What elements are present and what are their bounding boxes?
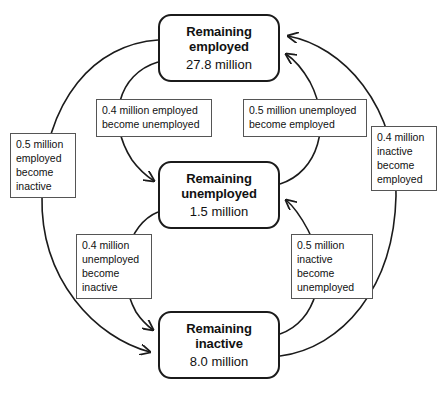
- state-inactive-title: Remaining inactive: [186, 321, 252, 352]
- state-unemployed-title-line2: unemployed: [181, 186, 257, 201]
- state-unemployed-title: Remaining unemployed: [181, 171, 257, 202]
- flow-label-unemployed-to-inactive-line4: inactive: [82, 281, 118, 293]
- flow-label-inactive-to-employed-line3: become: [377, 159, 414, 171]
- flow-label-unemployed-to-inactive: 0.4 million unemployed become inactive: [76, 234, 152, 299]
- state-box-inactive: Remaining inactive 8.0 million: [158, 311, 280, 379]
- flow-label-inactive-to-employed-line1: 0.4 million: [377, 131, 424, 143]
- flow-label-employed-to-inactive-line2: employed: [16, 152, 62, 164]
- flow-label-inactive-to-unemployed: 0.5 million inactive become unemployed: [291, 234, 373, 299]
- flow-label-employed-to-inactive-line1: 0.5 million: [16, 138, 63, 150]
- flow-label-inactive-to-unemployed-line1: 0.5 million: [297, 239, 344, 251]
- flow-label-employed-to-unemployed-line2: become unemployed: [102, 118, 199, 130]
- state-inactive-value: 8.0 million: [190, 354, 249, 369]
- labour-market-flow-diagram: Remaining employed 27.8 million Remainin…: [0, 0, 442, 393]
- flow-label-inactive-to-unemployed-line3: become: [297, 267, 334, 279]
- state-unemployed-value: 1.5 million: [190, 204, 249, 219]
- state-employed-value: 27.8 million: [186, 57, 252, 72]
- state-employed-title: Remaining employed: [186, 24, 252, 55]
- flow-label-employed-to-unemployed-line1: 0.4 million employed: [102, 104, 198, 116]
- flow-label-inactive-to-employed-line4: employed: [377, 173, 423, 185]
- flow-label-employed-to-inactive: 0.5 million employed become inactive: [10, 133, 76, 198]
- flow-label-inactive-to-unemployed-line2: inactive: [297, 253, 333, 265]
- state-inactive-title-line1: Remaining: [186, 321, 252, 336]
- flow-label-employed-to-inactive-line3: become: [16, 166, 53, 178]
- flow-label-employed-to-inactive-line4: inactive: [16, 180, 52, 192]
- state-box-employed: Remaining employed 27.8 million: [158, 14, 280, 82]
- state-inactive-title-line2: inactive: [195, 336, 243, 351]
- state-unemployed-title-line1: Remaining: [186, 171, 252, 186]
- state-employed-title-line2: employed: [189, 39, 249, 54]
- state-employed-title-line1: Remaining: [186, 24, 252, 39]
- flow-label-inactive-to-employed: 0.4 million inactive become employed: [371, 126, 437, 191]
- flow-label-inactive-to-unemployed-line4: unemployed: [297, 281, 354, 293]
- arrow-inactive-to-employed: [280, 36, 396, 356]
- flow-label-inactive-to-employed-line2: inactive: [377, 145, 413, 157]
- flow-label-unemployed-to-employed: 0.5 million unemployed become employed: [243, 99, 367, 137]
- flow-label-unemployed-to-inactive-line2: unemployed: [82, 253, 139, 265]
- flow-label-unemployed-to-inactive-line3: become: [82, 267, 119, 279]
- state-box-unemployed: Remaining unemployed 1.5 million: [158, 161, 280, 229]
- flow-label-unemployed-to-employed-line2: become employed: [249, 118, 335, 130]
- flow-label-unemployed-to-inactive-line1: 0.4 million: [82, 239, 129, 251]
- flow-label-unemployed-to-employed-line1: 0.5 million unemployed: [249, 104, 356, 116]
- flow-label-employed-to-unemployed: 0.4 million employed become unemployed: [96, 99, 212, 137]
